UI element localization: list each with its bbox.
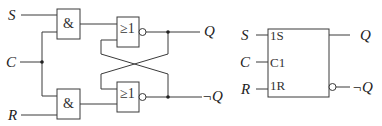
q-junction-dot <box>166 30 170 34</box>
and-gate-bottom-symbol: & <box>63 96 74 111</box>
block-inversion-bubble <box>329 84 336 91</box>
output-q-label: Q <box>204 23 215 39</box>
not-q-junction-dot <box>166 95 170 99</box>
nor-gate-bottom-symbol: ≥1 <box>120 86 135 101</box>
and-gate-top-symbol: & <box>63 16 74 31</box>
sr-latch-diagram: S C R & & ≥1 ≥1 Q ¬Q <box>0 0 382 126</box>
block-output-q-label: Q <box>360 27 371 43</box>
block-input-r-label: R <box>240 81 250 97</box>
gated-sr-latch-circuit: S C R & & ≥1 ≥1 Q ¬Q <box>6 7 223 123</box>
pin-1s-label: 1S <box>270 28 284 43</box>
pin-c1-label: C1 <box>270 55 285 70</box>
input-s-label: S <box>8 7 16 23</box>
block-input-s-label: S <box>241 27 249 43</box>
clock-bus-wire <box>42 32 57 96</box>
c-junction-dot <box>40 60 44 64</box>
pin-1r-label: 1R <box>270 78 286 93</box>
block-output-not-q-label: ¬Q <box>352 79 373 95</box>
nor-bottom-inversion-bubble <box>139 94 146 101</box>
sr-latch-block-symbol: S C R 1S C1 1R Q ¬Q <box>240 27 373 97</box>
nor-gate-top-symbol: ≥1 <box>120 21 135 36</box>
block-input-c-label: C <box>240 54 251 70</box>
input-c-label: C <box>6 54 17 70</box>
output-not-q-label: ¬Q <box>202 88 223 104</box>
input-r-label: R <box>7 107 17 123</box>
nor-top-inversion-bubble <box>139 29 146 36</box>
